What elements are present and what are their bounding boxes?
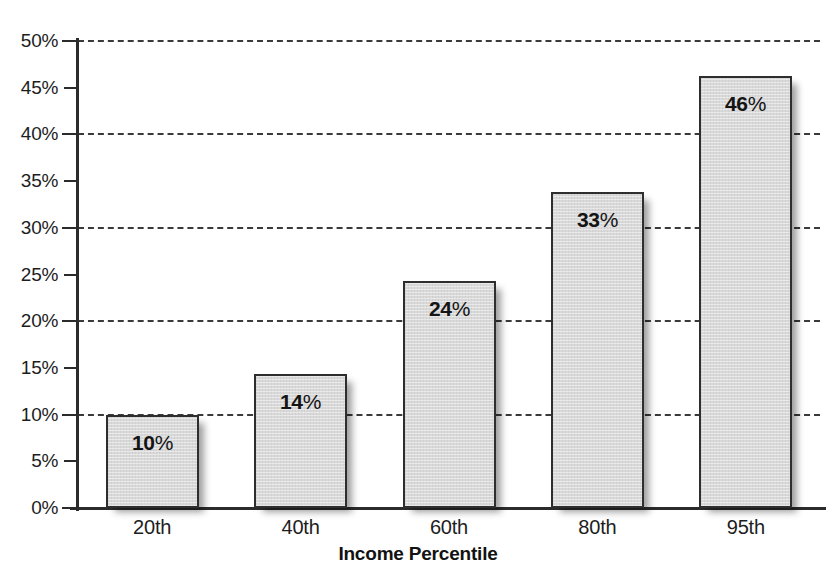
bar: 14% [254,374,347,508]
bar-value-number: 10 [132,431,155,454]
x-axis-category-label: 20th [92,516,212,539]
x-axis-title: Income Percentile [0,543,836,565]
bar-value-percent-sign: % [748,92,766,115]
bar: 10% [106,415,199,508]
bar-value-label: 14% [256,390,345,414]
y-axis-tick-label: 30% [2,217,58,239]
y-axis-tick-label: 10% [2,404,58,426]
bar-value-number: 46 [725,92,748,115]
bar-value-percent-sign: % [452,297,470,320]
bar-value-number: 14 [280,390,303,413]
bar-value-label: 24% [405,297,494,321]
y-axis-line [76,38,79,511]
bar-value-percent-sign: % [600,208,618,231]
bar-value-percent-sign: % [303,390,321,413]
x-axis-category-label: 40th [241,516,361,539]
bar: 33% [551,192,644,508]
y-axis-tick-label: 50% [2,30,58,52]
bar-value-label: 33% [553,208,642,232]
y-axis-tick-label: 5% [2,450,58,472]
y-axis-tick-label: 0% [2,497,58,519]
y-axis-tick-label: 25% [2,264,58,286]
y-axis-tick-label: 15% [2,357,58,379]
y-axis-labels: 0%5%10%15%20%25%30%35%40%45%50% [0,0,58,566]
bar-value-number: 24 [429,297,452,320]
x-axis-category-label: 80th [537,516,657,539]
x-axis-category-label: 60th [389,516,509,539]
bar-value-label: 10% [108,431,197,455]
bar-value-percent-sign: % [155,431,173,454]
bar: 46% [699,76,792,508]
y-axis-tick-label: 40% [2,123,58,145]
y-axis-tick-label: 45% [2,77,58,99]
bar-value-label: 46% [701,92,790,116]
gridline [78,40,820,42]
x-axis-category-label: 95th [686,516,806,539]
y-axis-tick-label: 35% [2,170,58,192]
cropped-chart-title [0,0,836,6]
bar-value-number: 33 [577,208,600,231]
bar-chart: 0%5%10%15%20%25%30%35%40%45%50% 10%14%24… [0,0,836,566]
y-axis-tick-label: 20% [2,310,58,332]
bar: 24% [403,281,496,508]
